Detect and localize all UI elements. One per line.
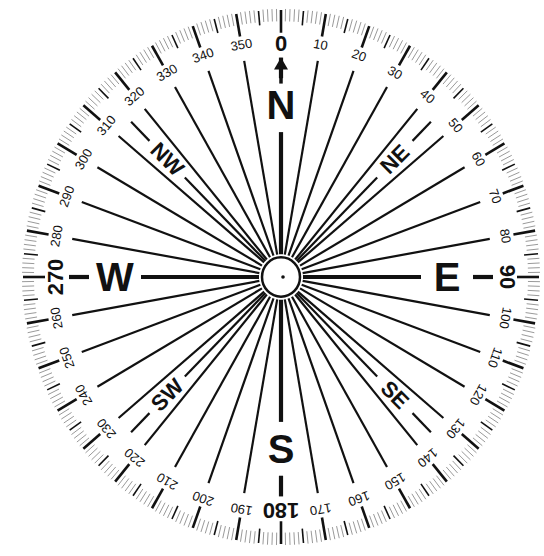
major-tick (115, 464, 129, 481)
minor-tick (361, 24, 365, 36)
major-tick (83, 105, 100, 120)
degree-label-250: 250 (56, 345, 78, 371)
intercardinal-nw: NW (145, 137, 189, 181)
medium-tick (344, 521, 348, 535)
minor-tick (522, 335, 534, 338)
minor-tick (332, 527, 334, 539)
minor-tick (353, 21, 357, 33)
major-tick (513, 231, 535, 235)
medium-tick (214, 521, 218, 535)
minor-tick (516, 194, 527, 198)
minor-tick (510, 177, 521, 182)
minor-tick (357, 520, 361, 532)
minor-tick (315, 530, 317, 542)
minor-tick (50, 393, 61, 399)
medium-tick (454, 88, 464, 98)
minor-tick (232, 14, 234, 26)
degree-label-180: 180 (263, 498, 300, 523)
minor-tick (526, 244, 538, 246)
major-tick (193, 507, 201, 528)
major-tick (27, 319, 49, 323)
major-tick (152, 489, 163, 509)
degree-label-330: 330 (154, 61, 180, 85)
minor-tick (397, 503, 403, 514)
degree-label-270: 270 (43, 259, 68, 296)
degree-label-300: 300 (72, 146, 96, 172)
minor-tick (526, 313, 538, 315)
minor-tick (223, 16, 226, 28)
minor-tick (33, 199, 44, 203)
cardinal-n: N (267, 83, 296, 127)
degree-label-100: 100 (496, 306, 515, 330)
minor-tick (263, 10, 264, 22)
minor-tick (523, 221, 535, 224)
minor-tick (201, 520, 205, 532)
minor-tick (357, 22, 361, 34)
major-tick (362, 507, 370, 528)
major-tick (115, 72, 129, 89)
minor-tick (167, 507, 172, 518)
degree-label-320: 320 (121, 84, 147, 109)
minor-tick (205, 521, 209, 533)
medium-tick (99, 88, 109, 98)
medium-tick (259, 11, 260, 25)
minor-tick (159, 503, 165, 514)
minor-tick (521, 339, 533, 342)
major-tick (236, 518, 240, 540)
minor-tick (240, 12, 242, 24)
minor-tick (41, 177, 52, 182)
hub-circle (262, 257, 300, 296)
minor-tick (341, 525, 344, 537)
minor-tick (490, 412, 500, 419)
degree-label-210: 210 (154, 469, 180, 493)
degree-label-200: 200 (190, 488, 216, 510)
minor-tick (24, 244, 36, 246)
medium-tick (47, 384, 60, 390)
minor-tick (508, 377, 519, 382)
minor-tick (397, 40, 403, 51)
cardinal-e: E (434, 255, 461, 299)
minor-tick (249, 11, 250, 23)
medium-tick (24, 299, 38, 300)
degree-label-20: 20 (350, 46, 369, 65)
center-hub (262, 257, 300, 296)
minor-tick (25, 240, 37, 242)
minor-tick (24, 308, 36, 310)
minor-tick (267, 9, 268, 21)
major-tick (485, 143, 504, 154)
degree-label-30: 30 (385, 63, 405, 83)
minor-tick (501, 393, 512, 399)
minor-tick (370, 516, 374, 528)
degree-label-170: 170 (309, 500, 333, 519)
degree-label-260: 260 (47, 306, 66, 330)
minor-tick (518, 203, 530, 206)
radial-line-100 (303, 281, 490, 315)
minor-tick (527, 249, 539, 250)
medium-tick (454, 456, 464, 466)
minor-tick (232, 528, 234, 540)
minor-tick (349, 523, 352, 535)
minor-tick (349, 19, 352, 31)
medium-tick (502, 384, 515, 390)
radial-line-135-outer (413, 413, 431, 432)
minor-tick (30, 339, 42, 342)
minor-tick (515, 360, 526, 364)
minor-tick (523, 326, 535, 328)
minor-tick (25, 317, 37, 319)
minor-tick (176, 32, 181, 43)
minor-tick (25, 235, 37, 237)
intercardinal-se: SE (376, 376, 414, 414)
major-tick (485, 399, 504, 410)
minor-tick (416, 52, 423, 62)
minor-tick (507, 381, 518, 386)
radial-line-225-outer (131, 413, 149, 432)
minor-tick (526, 308, 538, 310)
radial-line-315-outer (131, 122, 149, 141)
minor-tick (499, 397, 510, 403)
medium-tick (517, 208, 531, 212)
minor-tick (254, 531, 255, 543)
minor-tick (298, 10, 299, 22)
minor-tick (245, 12, 247, 24)
medium-tick (47, 164, 60, 170)
cardinal-s: S (268, 427, 295, 471)
